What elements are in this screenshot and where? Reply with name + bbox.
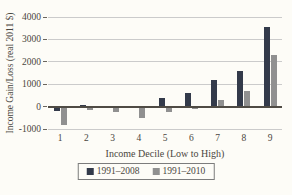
legend-label-1991-2008: 1991–2008 bbox=[97, 166, 140, 177]
legend: 1991–20081991–2010 bbox=[78, 163, 215, 180]
x-tick-label-3: 3 bbox=[103, 133, 123, 144]
legend-swatch-1991-2008 bbox=[87, 168, 94, 175]
y-tick-mark-3000 bbox=[43, 39, 47, 40]
gridline-1000 bbox=[48, 84, 282, 85]
legend-item-1991-2008: 1991–2008 bbox=[87, 166, 140, 177]
plot-area bbox=[48, 17, 282, 129]
y-tick-mark--1000 bbox=[43, 129, 47, 130]
bar-1991-2010-decile-8 bbox=[244, 91, 250, 107]
x-tick-label-2: 2 bbox=[76, 133, 96, 144]
y-tick-mark-4000 bbox=[43, 17, 47, 18]
y-tick-mark-1000 bbox=[43, 84, 47, 85]
x-tick-label-9: 9 bbox=[260, 133, 280, 144]
y-tick-label-4000: 4000 bbox=[0, 12, 41, 22]
income-decile-bar-chart: Income Gain/Loss (real 2011 $) 400030002… bbox=[0, 0, 292, 195]
bar-1991-2010-decile-9 bbox=[271, 55, 277, 107]
bar-1991-2008-decile-6 bbox=[185, 93, 191, 106]
x-tick-label-1: 1 bbox=[50, 133, 70, 144]
x-tick-label-6: 6 bbox=[181, 133, 201, 144]
legend-label-1991-2010: 1991–2010 bbox=[163, 166, 206, 177]
bar-1991-2008-decile-8 bbox=[237, 71, 243, 107]
y-tick-label-0: 0 bbox=[0, 102, 41, 112]
x-tick-label-5: 5 bbox=[155, 133, 175, 144]
legend-item-1991-2010: 1991–2010 bbox=[153, 166, 206, 177]
gridline--1000 bbox=[48, 129, 282, 130]
x-axis-title: Income Decile (Low to High) bbox=[48, 148, 282, 160]
x-tick-label-7: 7 bbox=[208, 133, 228, 144]
gridline-4000 bbox=[48, 17, 282, 18]
bar-1991-2010-decile-4 bbox=[139, 107, 145, 118]
zero-axis-line bbox=[48, 106, 282, 108]
bar-1991-2010-decile-1 bbox=[61, 107, 67, 125]
x-axis-labels: 123456789 bbox=[48, 133, 282, 144]
y-tick-mark-2000 bbox=[43, 61, 47, 62]
y-tick-label-2000: 2000 bbox=[0, 57, 41, 67]
y-tick-label--1000: -1000 bbox=[0, 124, 41, 134]
bar-1991-2008-decile-7 bbox=[211, 80, 217, 107]
gridline-2000 bbox=[48, 61, 282, 62]
y-axis-labels: 40003000200010000-1000 bbox=[0, 17, 41, 129]
gridline-3000 bbox=[48, 39, 282, 40]
y-tick-mark-0 bbox=[43, 106, 47, 107]
bar-1991-2008-decile-9 bbox=[264, 27, 270, 107]
x-tick-label-4: 4 bbox=[129, 133, 149, 144]
y-tick-label-3000: 3000 bbox=[0, 34, 41, 44]
x-tick-label-8: 8 bbox=[234, 133, 254, 144]
y-tick-label-1000: 1000 bbox=[0, 79, 41, 89]
legend-swatch-1991-2010 bbox=[153, 168, 160, 175]
